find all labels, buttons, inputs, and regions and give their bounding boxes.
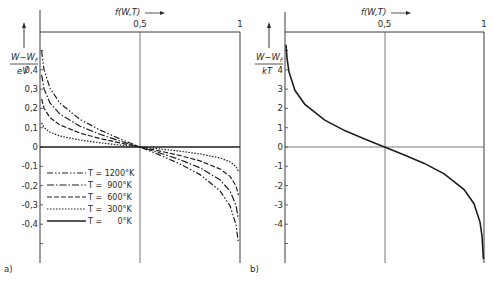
panel-a-chart: W−WF eV f(W,T) 0,51 0,40,30,20,10-0,1-0,…: [4, 7, 243, 274]
y-label-num-a: W−WF: [11, 52, 39, 63]
y-tick-label: 0,4: [24, 65, 38, 75]
arrow-right-icon: [160, 11, 165, 15]
x-tick-label: 1: [481, 19, 486, 29]
arrow-up-icon: [22, 22, 26, 28]
y-tick-label: 2: [278, 103, 283, 113]
y-tick-label: 0: [33, 142, 38, 152]
x-axis-label-b: f(W,T): [361, 7, 386, 17]
x-axis-label-a: f(W,T): [115, 7, 140, 17]
x-tick-label: 0,5: [133, 19, 147, 29]
x-tick-label: 0,5: [378, 19, 392, 29]
y-tick-label: 0,3: [24, 84, 38, 94]
panel-label-b: b): [250, 264, 259, 274]
y-tick-label: -2: [275, 181, 283, 191]
legend-label: T = 600°K: [87, 193, 132, 202]
legend-label: T = 0°K: [87, 217, 132, 226]
fermi-dirac-figure: W−WF eV f(W,T) 0,51 0,40,30,20,10-0,1-0,…: [0, 0, 492, 283]
y-tick-label: -1: [275, 161, 283, 171]
y-tick-label: 0,2: [24, 103, 38, 113]
y-tick-label: -4: [275, 219, 283, 229]
y-tick-label: 3: [278, 84, 283, 94]
legend-label: T = 900°K: [87, 181, 132, 190]
y-tick-label: -0,4: [21, 219, 38, 229]
y-tick-label: -3: [275, 200, 283, 210]
panel-label-a: a): [4, 264, 13, 274]
y-tick-label: 4: [278, 65, 283, 75]
y-label-num-b: W−WF: [256, 52, 284, 63]
legend-label: T = 1200°K: [87, 169, 135, 178]
y-tick-label: 0: [278, 142, 283, 152]
legend-label: T = 300°K: [87, 205, 132, 214]
y-tick-label: -0,3: [21, 200, 38, 210]
panel-b-chart: W−WF kT f(W,T) 0,51 43210-1-2-3-4 b): [250, 7, 487, 274]
arrow-up-icon: [267, 22, 271, 28]
x-tick-label: 1: [237, 19, 242, 29]
y-tick-label: 1: [278, 123, 283, 133]
arrow-right-icon: [406, 11, 411, 15]
y-tick-label: -0,2: [21, 181, 38, 191]
y-tick-label: -0,1: [21, 161, 38, 171]
y-label-den-b: kT: [262, 66, 273, 76]
y-tick-label: 0,1: [24, 123, 38, 133]
